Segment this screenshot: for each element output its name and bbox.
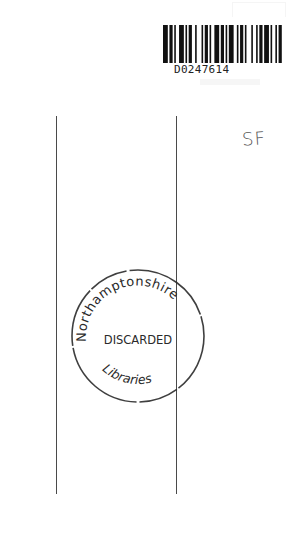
handwritten-note: SF: [241, 127, 266, 150]
stamp-center-text: DISCARDED: [104, 333, 173, 347]
stamp-bottom-text: Libraries: [100, 361, 154, 387]
barcode-number: D0247614: [174, 63, 229, 76]
faint-mark: [200, 79, 260, 85]
discarded-stamp: Northamptonshire DISCARDED Libraries: [68, 266, 208, 406]
faint-label-area: [232, 2, 286, 17]
stamp-top-text: Northamptonshire: [74, 273, 182, 342]
barcode: [163, 25, 285, 63]
vertical-rule-left: [56, 116, 57, 494]
